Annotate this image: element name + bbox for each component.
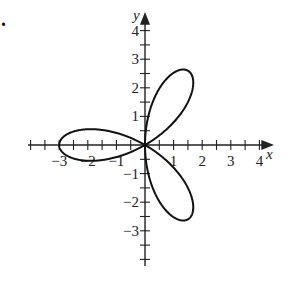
y-axis-label: y: [131, 7, 140, 23]
y-tick-label: 4: [132, 23, 140, 39]
y-tick-label: 2: [132, 80, 140, 96]
x-axis-label: x: [265, 146, 273, 162]
y-tick-label: 1: [132, 108, 140, 124]
polar-rose-plot: −3−2−112344321−1−2−3xy: [0, 0, 287, 283]
y-tick-label: 3: [132, 51, 140, 67]
x-tick-label: 2: [198, 153, 206, 169]
y-tick-label: −2: [123, 194, 139, 210]
y-tick-label: −1: [123, 166, 139, 182]
y-tick-label: −3: [123, 223, 139, 239]
y-axis-arrow-icon: [141, 14, 149, 24]
x-tick-label: 4: [256, 153, 264, 169]
axes: [28, 14, 272, 266]
x-tick-label: 3: [227, 153, 235, 169]
